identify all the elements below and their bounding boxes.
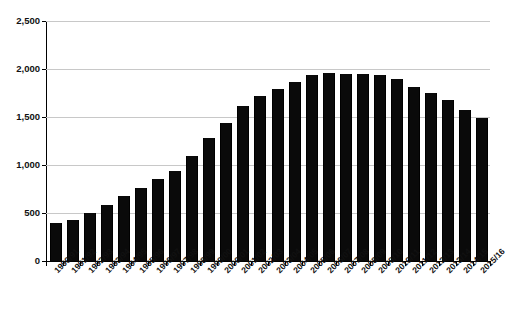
gridline-1500 <box>46 117 490 118</box>
bar[interactable] <box>442 100 454 261</box>
bar[interactable] <box>357 74 369 261</box>
gridline-2000 <box>46 69 490 70</box>
x-tick-mark <box>46 261 47 266</box>
bar[interactable] <box>237 106 249 261</box>
bar[interactable] <box>374 75 386 261</box>
y-axis-tick-label: 1,500 <box>0 112 40 122</box>
bar[interactable] <box>323 73 335 261</box>
bar[interactable] <box>391 79 403 261</box>
y-axis-tick-label: 2,500 <box>0 16 40 26</box>
bar[interactable] <box>220 123 232 261</box>
y-tick-mark <box>42 165 46 166</box>
y-axis-label-group: 05001,0001,5002,0002,500 <box>0 0 40 310</box>
bar-chart: 05001,0001,5002,0002,500 1990/911991/921… <box>0 0 505 310</box>
gridline-2500 <box>46 21 490 22</box>
bar[interactable] <box>425 93 437 261</box>
y-tick-mark <box>42 117 46 118</box>
bar[interactable] <box>203 138 215 261</box>
bar[interactable] <box>289 82 301 261</box>
bar[interactable] <box>476 118 488 261</box>
bar[interactable] <box>340 74 352 261</box>
bar[interactable] <box>254 96 266 261</box>
bar[interactable] <box>306 75 318 261</box>
y-tick-mark <box>42 69 46 70</box>
y-axis-tick-label: 0 <box>0 256 40 266</box>
gridline-1000 <box>46 165 490 166</box>
y-axis-tick-label: 1,000 <box>0 160 40 170</box>
bar[interactable] <box>50 223 62 261</box>
y-tick-mark <box>42 213 46 214</box>
plot-area <box>46 21 490 261</box>
bar[interactable] <box>459 110 471 261</box>
y-axis-tick-label: 2,000 <box>0 64 40 74</box>
y-tick-mark <box>42 261 46 262</box>
bar[interactable] <box>272 89 284 261</box>
y-axis-tick-label: 500 <box>0 208 40 218</box>
y-tick-mark <box>42 21 46 22</box>
bar[interactable] <box>408 87 420 261</box>
